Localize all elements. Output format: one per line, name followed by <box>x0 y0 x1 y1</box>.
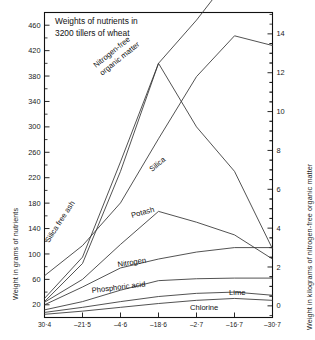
y-axis-left-tick-label: 60 <box>32 275 40 284</box>
line-chart-plot: 2060100140180220260300340380420460 02468… <box>0 0 315 340</box>
x-axis-tick-label: 30·4 <box>38 321 52 328</box>
series-label-silica-free-ash: Silica free ash <box>43 199 77 244</box>
y-axis-right-tick-labels: 02468101214 <box>277 29 285 310</box>
chart-title: Weights of nutrients in 3200 tillers of … <box>55 16 138 39</box>
x-axis-tick-label: –21·5 <box>74 321 91 328</box>
y-axis-left-tick-label: 100 <box>28 250 40 259</box>
y-axis-left-tick-label: 140 <box>28 224 40 233</box>
y-axis-left-tick-label: 340 <box>28 97 40 106</box>
series-label-nitrogen: Nitrogen <box>117 256 147 269</box>
y-axis-left-tick-label: 460 <box>28 21 40 30</box>
y-axis-right-tick-label: 14 <box>277 29 285 38</box>
series-line-silica-free-ash <box>45 0 273 298</box>
series-label-phosphoric-acid: Phosphoric acid <box>91 279 146 295</box>
series-inline-labels: Nitrogen-freeorganic matterSilica free a… <box>43 32 245 312</box>
y-axis-left-tick-labels: 2060100140180220260300340380420460 <box>28 21 40 310</box>
x-axis-tick-label: –30·7 <box>264 321 281 328</box>
y-axis-left-tick-label: 420 <box>28 46 40 55</box>
y-axis-right-tick-label: 8 <box>277 146 281 155</box>
series-label-chlorine: Chlorine <box>190 303 218 312</box>
y-axis-left-tick-label: 380 <box>28 72 40 81</box>
y-axis-left-tick-label: 20 <box>32 300 40 309</box>
series-label-lime: Lime <box>229 288 245 297</box>
y-axis-right-title: Weight in kilograms of nitrogen-free org… <box>305 164 314 330</box>
y-axis-left-title: Weight in grams of nutrients <box>11 208 20 300</box>
x-axis-tick-label: –4·6 <box>114 321 128 328</box>
figure-container: Weight in grams of nutrients Weight in k… <box>0 0 315 340</box>
x-axis-tick-label: –16·7 <box>226 321 243 328</box>
x-axis-tick-labels: 30·4–21·5–4·6–18·6–2·7–16·7–30·7 <box>38 321 281 328</box>
y-axis-right-tick-label: 6 <box>277 185 281 194</box>
series-label-silica: Silica <box>148 154 168 173</box>
series-line-silica <box>45 63 273 301</box>
y-axis-left-tick-label: 180 <box>28 199 40 208</box>
series-line-nitrogen-free-organic-matter <box>45 36 273 276</box>
y-axis-right-tick-label: 0 <box>277 301 281 310</box>
y-axis-left-tick-label: 220 <box>28 173 40 182</box>
y-axis-left-tick-label: 260 <box>28 148 40 157</box>
x-axis-tick-label: –2·7 <box>190 321 204 328</box>
y-axis-right-ticks <box>268 14 273 315</box>
x-axis-ticks <box>45 313 273 318</box>
y-axis-right-tick-label: 2 <box>277 263 281 272</box>
y-axis-left-tick-label: 300 <box>28 122 40 131</box>
y-axis-right-tick-label: 10 <box>277 107 285 116</box>
x-axis-tick-label: –18·6 <box>150 321 167 328</box>
y-axis-right-tick-label: 4 <box>277 224 281 233</box>
y-axis-right-tick-label: 12 <box>277 68 285 77</box>
series-line-chlorine <box>45 298 273 314</box>
